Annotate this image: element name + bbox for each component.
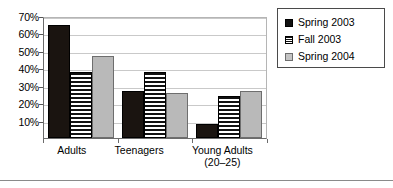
x-axis-category-sublabel: (20–25) <box>192 156 253 168</box>
bar <box>218 96 240 138</box>
y-axis-tick-mark <box>39 87 43 88</box>
x-axis-category-label: Teenagers <box>115 144 164 168</box>
legend-item: Spring 2004 <box>285 48 384 65</box>
bar <box>166 93 188 138</box>
chart-legend: Spring 2003Fall 2003Spring 2004 <box>277 8 385 68</box>
legend-swatch-icon <box>285 19 293 27</box>
legend-label: Spring 2003 <box>298 17 355 28</box>
x-axis-tick-mark <box>267 139 268 143</box>
bar-group <box>122 18 188 138</box>
bar <box>240 91 262 138</box>
y-axis-tick-mark <box>39 69 43 70</box>
x-axis-category-label: Young Adults(20–25) <box>192 144 253 168</box>
bar-group <box>48 18 114 138</box>
bar <box>70 72 92 138</box>
x-axis-label-group: AdultsTeenagersYoung Adults(20–25) <box>43 144 267 168</box>
x-axis-category-name: Young Adults <box>192 144 253 156</box>
y-axis-tick-mark <box>39 52 43 53</box>
bar <box>48 25 70 138</box>
legend-label: Spring 2004 <box>298 51 355 62</box>
x-axis-tick-mark <box>118 139 119 143</box>
y-axis-tick-label: 40% <box>5 64 39 74</box>
bar-group <box>196 18 262 138</box>
y-axis-tick-label: 30% <box>5 82 39 92</box>
y-axis-tick-label: 10% <box>5 117 39 127</box>
legend-item: Fall 2003 <box>285 31 384 48</box>
x-axis-category-name: Adults <box>57 144 86 156</box>
x-axis-tick-mark <box>192 139 193 143</box>
bar <box>196 124 218 138</box>
y-axis-tick-mark <box>39 104 43 105</box>
y-axis-label-group: 70%60%50%40%30%20%10% <box>5 0 39 188</box>
bottom-divider <box>0 180 393 181</box>
y-axis-tick-mark <box>39 34 43 35</box>
legend-label: Fall 2003 <box>298 34 341 45</box>
bar <box>144 72 166 138</box>
y-axis-tick-mark <box>39 17 43 18</box>
y-axis-tick-label: 20% <box>5 99 39 109</box>
plot-area <box>43 17 267 139</box>
x-axis-tick-mark <box>43 139 44 143</box>
y-axis-tick-label: 70% <box>5 12 39 22</box>
y-axis-tick-label: 60% <box>5 29 39 39</box>
x-axis-category-name: Teenagers <box>115 144 164 156</box>
bar-group-container <box>44 18 266 138</box>
bar <box>92 56 114 138</box>
bar-chart-figure: 70%60%50%40%30%20%10% AdultsTeenagersYou… <box>0 0 393 188</box>
x-axis-category-label: Adults <box>57 144 86 168</box>
bar <box>122 91 144 138</box>
legend-item: Spring 2003 <box>285 14 384 31</box>
legend-swatch-icon <box>285 36 293 44</box>
y-axis-tick-label: 50% <box>5 47 39 57</box>
legend-swatch-icon <box>285 53 293 61</box>
y-axis-tick-mark <box>39 122 43 123</box>
